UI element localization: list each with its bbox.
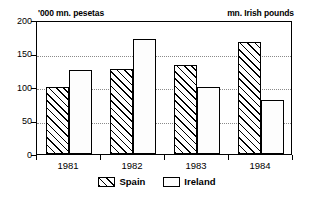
left-axis-title: '000 mn. pesetas <box>38 8 104 18</box>
x-tick-label-1981: 1981 <box>57 160 78 171</box>
x-tick-mark <box>292 155 293 160</box>
bar-ireland-1984 <box>261 100 284 154</box>
bar-chart: '000 mn. pesetas mn. Irish pounds 050100… <box>0 0 314 199</box>
plot-area <box>36 21 292 155</box>
legend-item-ireland[interactable]: Ireland <box>163 177 215 187</box>
legend-label: Spain <box>119 177 145 187</box>
bar-ireland-1982 <box>133 39 156 154</box>
y-tick-label: 0 <box>6 151 32 160</box>
y-tick-label: 50 <box>6 117 32 126</box>
y-tick-label: 100 <box>6 84 32 93</box>
legend-label: Ireland <box>184 177 215 187</box>
x-tick-label-1984: 1984 <box>249 160 270 171</box>
x-tick-mark <box>228 155 229 160</box>
x-tick-mark <box>164 155 165 160</box>
bar-spain-1983 <box>174 65 197 154</box>
bar-spain-1981 <box>46 87 69 154</box>
y-tick-label: 200 <box>6 17 32 26</box>
right-axis-title: mn. Irish pounds <box>227 8 294 18</box>
legend-swatch-spain-icon <box>98 177 115 187</box>
bar-spain-1982 <box>110 69 133 154</box>
x-tick-mark <box>100 155 101 160</box>
legend-swatch-ireland-icon <box>163 177 180 187</box>
x-tick-label-1982: 1982 <box>121 160 142 171</box>
x-tick-mark <box>36 155 37 160</box>
bar-ireland-1983 <box>197 87 220 154</box>
y-tick-label: 150 <box>6 50 32 59</box>
x-tick-label-1983: 1983 <box>185 160 206 171</box>
bar-ireland-1981 <box>69 70 92 154</box>
chart-legend: SpainIreland <box>0 177 314 187</box>
bar-spain-1984 <box>238 42 261 154</box>
legend-item-spain[interactable]: Spain <box>98 177 145 187</box>
